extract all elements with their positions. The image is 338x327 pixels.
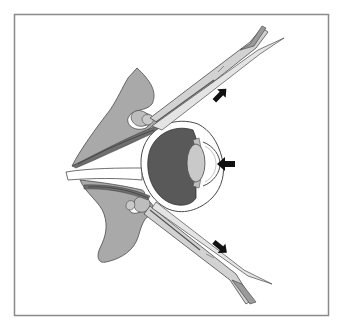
eyeball xyxy=(141,121,224,211)
eye-diagram xyxy=(0,0,338,327)
lens xyxy=(187,144,205,182)
diagram-canvas xyxy=(0,0,338,327)
